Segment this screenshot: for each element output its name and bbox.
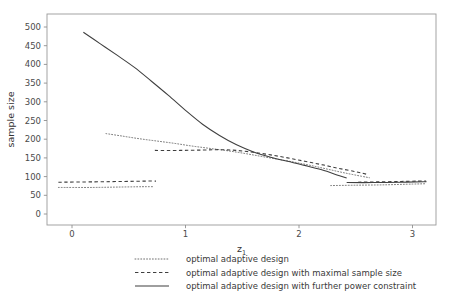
y-tick-label: 100 [25,172,41,182]
axes: 0501001502002503003504004505000123 [25,14,436,239]
chart-figure: 0501001502002503003504004505000123 sampl… [0,0,454,302]
y-tick-label: 500 [25,22,41,32]
legend-item-2[interactable]: optimal adaptive design with maximal sam… [135,268,402,278]
series-1-segment-1 [58,187,153,188]
series-2-segment-1 [58,181,156,182]
series-1-segment-2 [106,134,369,178]
legend-label: optimal adaptive design [186,254,289,264]
y-tick-label: 150 [25,153,41,163]
x-tick-label: 1 [183,229,188,239]
series-1-segment-3 [331,184,426,186]
y-tick-label: 50 [30,190,41,200]
series-1 [58,134,426,188]
y-tick-label: 400 [25,59,41,69]
y-tick-label: 200 [25,134,41,144]
plot-frame [47,14,436,225]
y-tick-label: 250 [25,116,41,126]
y-tick-label: 300 [25,97,41,107]
chart-legend: optimal adaptive designoptimal adaptive … [135,254,417,291]
y-tick-label: 0 [36,209,41,219]
x-tick-label: 0 [69,229,74,239]
series-3 [83,32,426,182]
y-tick-label: 450 [25,41,41,51]
legend-label: optimal adaptive design with maximal sam… [186,268,402,278]
axis-labels: sample sizez1 [5,91,246,256]
x-tick-label: 2 [296,229,301,239]
series-2 [58,150,426,183]
y-tick-label: 350 [25,78,41,88]
chart-canvas: 0501001502002503003504004505000123 sampl… [0,0,454,302]
series-3-segment-1 [83,32,346,178]
x-tick-label: 3 [410,229,415,239]
legend-item-3[interactable]: optimal adaptive design with further pow… [135,281,417,291]
data-series [58,32,426,187]
legend-label: optimal adaptive design with further pow… [186,281,417,291]
y-axis-title: sample size [5,91,16,147]
legend-item-1[interactable]: optimal adaptive design [135,254,289,264]
